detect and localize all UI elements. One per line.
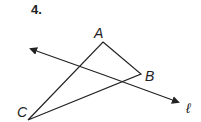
line-l-arrow-right <box>104 75 178 102</box>
triangle-diagram <box>0 0 201 122</box>
label-b: B <box>145 68 154 84</box>
label-line-l: ℓ <box>186 100 191 116</box>
label-c: C <box>17 104 27 120</box>
label-a: A <box>94 25 103 41</box>
